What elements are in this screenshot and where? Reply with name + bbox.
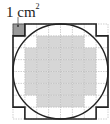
shaded-square [37, 48, 49, 60]
shaded-square [49, 60, 61, 72]
shaded-square [25, 72, 37, 84]
shaded-square [25, 60, 37, 72]
shaded-square [72, 36, 84, 48]
shaded-square [84, 48, 96, 60]
shaded-square [49, 36, 61, 48]
shaded-square [72, 48, 84, 60]
shaded-square [49, 72, 61, 84]
shaded-square [84, 60, 96, 72]
shaded-square [49, 83, 61, 95]
label-pointer-dot [17, 25, 19, 27]
shaded-square [25, 83, 37, 95]
shaded-square [84, 83, 96, 95]
shaded-square [37, 36, 49, 48]
shaded-square [49, 48, 61, 60]
shaded-square [84, 72, 96, 84]
shaded-square [25, 48, 37, 60]
circle-area-grid-diagram [0, 0, 110, 124]
shaded-square [61, 48, 73, 60]
shaded-square [49, 95, 61, 107]
shaded-square [37, 72, 49, 84]
shaded-square [72, 60, 84, 72]
shaded-square [61, 83, 73, 95]
shaded-square [61, 36, 73, 48]
shaded-square [37, 60, 49, 72]
shaded-square [37, 95, 49, 107]
shaded-square [72, 95, 84, 107]
shaded-square [72, 83, 84, 95]
shaded-square [37, 83, 49, 95]
shaded-square [72, 72, 84, 84]
shaded-square [61, 95, 73, 107]
shaded-square [61, 60, 73, 72]
shaded-square [61, 72, 73, 84]
